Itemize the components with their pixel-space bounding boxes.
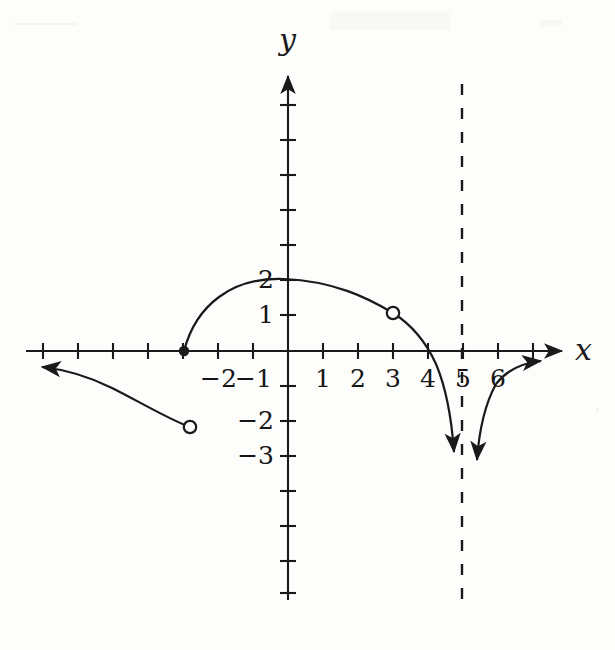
y-tick-label-2: 2 <box>248 265 274 294</box>
graph-drawing <box>0 0 615 650</box>
closed-dot-marker <box>179 346 189 356</box>
x-tick-label-neg1: −1 <box>235 364 271 393</box>
x-tick-label-3: 3 <box>380 364 406 393</box>
y-axis-label: y <box>279 22 296 57</box>
x-tick-label-6: 6 <box>485 364 511 393</box>
x-tick-label-5: 5 <box>450 364 476 393</box>
curve-left-branch <box>42 367 190 427</box>
open-circle-marker-left <box>184 421 196 433</box>
x-axis-label: x <box>575 332 592 367</box>
x-tick-label-2: 2 <box>345 364 371 393</box>
open-circle-marker-arch <box>387 307 399 319</box>
x-tick-label-neg2: −2 <box>200 364 236 393</box>
curve-right-branch-lower <box>477 384 496 460</box>
x-tick-label-1: 1 <box>310 364 336 393</box>
y-tick-label-neg3: −3 <box>230 441 274 470</box>
x-axis <box>26 343 562 359</box>
y-axis <box>280 76 296 600</box>
figure-canvas: y x −2 −1 1 2 3 4 5 6 2 1 −2 −3 <box>0 0 615 650</box>
x-tick-label-4: 4 <box>415 364 441 393</box>
y-tick-label-neg2: −2 <box>230 406 274 435</box>
y-tick-label-1: 1 <box>248 300 274 329</box>
